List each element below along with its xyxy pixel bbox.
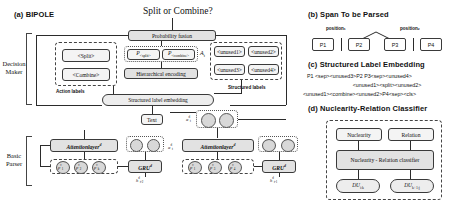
top-alpha-sub: t	[190, 119, 191, 123]
sl-to-sle-h	[214, 93, 242, 94]
left-alpha-label: αdt	[168, 143, 173, 151]
gru-right-state-line	[279, 173, 280, 177]
d-arrow-4	[410, 170, 411, 179]
gru-right[interactable]: GRUd	[262, 160, 296, 173]
p-right-3-label: pc4	[230, 163, 235, 171]
right-cell-h	[281, 139, 295, 152]
attention-left-label: Attentionlayer	[67, 143, 100, 149]
p-left-3-label: pck	[94, 163, 99, 171]
attn-left-up	[84, 130, 85, 139]
d-arrow-3	[358, 170, 359, 179]
unused3-box[interactable]: <unused3>	[214, 64, 245, 75]
span-sep-1	[341, 38, 342, 51]
gru-left-state-line	[145, 173, 146, 177]
cells-to-right	[238, 119, 286, 120]
du-right-label: DU	[404, 182, 412, 188]
gru-right-label: GRU	[272, 164, 284, 170]
gru-left-up	[145, 152, 146, 160]
sle-line-3: <unused1><combine><unused2>P4<sep><cls>	[303, 90, 470, 98]
pf-to-prob-line	[161, 41, 162, 46]
p-left-1-label: pc1	[58, 163, 63, 171]
unused2-box[interactable]: <unused2>	[248, 46, 279, 57]
top-cell-h	[219, 113, 234, 128]
left-cell-h	[147, 139, 160, 152]
nuclearity-relation-classifier-box[interactable]: Nuclearity - Relation classifier	[336, 150, 434, 170]
du-left-label: DU	[352, 182, 360, 188]
unused4-box[interactable]: <unused4>	[248, 64, 279, 75]
unused1-box[interactable]: <unused1>	[214, 46, 245, 57]
prob-split-sub: <split>	[140, 54, 151, 58]
left-in-vert	[40, 145, 41, 166]
sle-line-1: P1 <sep><unused3>P2 P3<sep><unused4>	[307, 72, 467, 80]
connector-right-bottom	[230, 105, 286, 106]
sle-to-text-line	[152, 106, 153, 114]
structured-labels-caption: Structured labels	[228, 85, 266, 90]
gru-right-state: hdt-1	[270, 176, 277, 184]
top-alpha-label: αdt	[186, 115, 191, 123]
p-right-2-label: pc3	[210, 163, 215, 171]
decision-maker-side-label: Decision Maker	[0, 60, 28, 76]
sl-to-sle-v	[241, 80, 242, 93]
panel-a-label: (a) BIPOLE	[14, 10, 54, 19]
gru-right-up	[279, 152, 280, 160]
attention-layer-left[interactable]: Attentionlayerd	[50, 139, 118, 152]
action-labels-caption: Action labels	[56, 89, 85, 94]
d-arrow-1	[358, 141, 359, 150]
nuclearity-box[interactable]: Nuclearity	[336, 128, 382, 141]
probability-fusion-box[interactable]: Probability fusion	[128, 30, 216, 41]
prob-combine-sub: <combine>	[171, 54, 189, 58]
action-variable: At	[200, 50, 205, 58]
structured-label-embedding-box[interactable]: Structured label embedding	[102, 94, 214, 106]
attention-right-sup: d	[234, 143, 236, 147]
action-to-sle-line	[113, 86, 114, 94]
basic-parser-side-label: Basic Parser	[0, 152, 28, 168]
panel-c-label: (c) Structured Label Embedding	[308, 60, 425, 69]
gru-left[interactable]: GRUd	[128, 160, 162, 173]
pright-to-attn	[217, 152, 218, 159]
panel-d-label: (d) Nuclearity-Relation Classifier	[308, 104, 427, 113]
attention-left-sup: d	[100, 143, 102, 147]
left-in-line	[40, 166, 50, 167]
pleft-to-gru	[118, 166, 128, 167]
prob-combine-box: P<combine>	[162, 49, 195, 60]
d-arrow-2	[410, 141, 411, 150]
panel-a-title: Split or Combine?	[143, 6, 213, 16]
connector-left-vert	[36, 35, 37, 105]
action-label-split[interactable]: <Split>	[62, 49, 110, 62]
connector-left-top	[36, 35, 128, 36]
title-arrow-line	[172, 18, 173, 30]
gru-left-sup: d	[150, 164, 152, 168]
text-to-cells	[170, 112, 196, 113]
du-right[interactable]: DUk+1:j	[390, 179, 434, 193]
prob-to-he-line	[161, 62, 162, 68]
attention-right-label: Attentionlayer	[201, 143, 234, 149]
gru-right-sup: d	[284, 164, 286, 168]
action-label-combine[interactable]: <Combine>	[62, 68, 110, 81]
p-right-1-label: pc1	[190, 163, 195, 171]
du-left-sub: i:k	[360, 186, 364, 190]
attention-layer-right[interactable]: Attentionlayerd	[182, 139, 254, 152]
cells-down-line	[217, 128, 218, 138]
sle-line-2: <unused1><split><unused2>	[307, 81, 467, 89]
connector-left-bottom	[36, 105, 102, 106]
span-p1[interactable]: P1	[312, 38, 334, 51]
span-p2[interactable]: P2	[348, 38, 370, 51]
panel-b-label: (b) Span To be Parsed	[308, 10, 389, 19]
span-p3[interactable]: P3	[384, 38, 406, 51]
p-left-2-label: pc2	[76, 163, 81, 171]
relation-box[interactable]: Relation	[388, 128, 434, 141]
text-box[interactable]: Text	[141, 114, 163, 125]
hierarchical-encoding-box[interactable]: Hierarchical encoding	[124, 68, 198, 79]
gru-left-state: hdt-2	[136, 176, 143, 184]
left-in-attn	[40, 145, 50, 146]
du-left[interactable]: DUi:k	[336, 179, 380, 193]
pright-to-gru	[254, 166, 262, 167]
connector-right-vert	[286, 35, 287, 105]
span-sep-2	[413, 38, 414, 51]
top-cell-c	[201, 113, 216, 128]
gru-left-label: GRU	[138, 164, 150, 170]
span-p4[interactable]: P4	[420, 38, 442, 51]
du-right-sub: k+1:j	[412, 186, 420, 190]
left-cell-c	[130, 139, 143, 152]
connector-right-top	[216, 35, 286, 36]
